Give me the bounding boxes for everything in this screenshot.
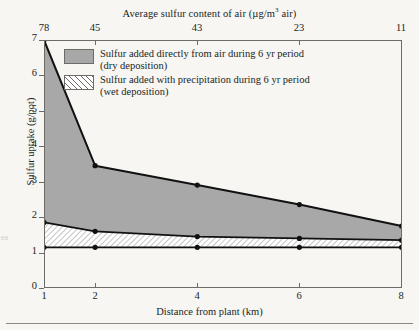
x-tick-label-4: 8 (381, 290, 419, 301)
legend: Sulfur added directly from air during 6 … (64, 48, 310, 100)
y-tick-1 (39, 253, 44, 254)
solid-gray-swatch-icon (64, 49, 94, 64)
legend-dry-line2: (dry deposition) (100, 60, 304, 72)
y-tick-5 (39, 111, 44, 112)
y-tick-6 (39, 75, 44, 76)
top-tick-label-3: 23 (279, 22, 319, 33)
x-axis-title: Distance from plant (km) (0, 306, 419, 317)
y-axis-title: Sulfur uptake (g/pot) (25, 62, 36, 222)
page-bleed-text: ea (1, 232, 9, 243)
x-tick-label-1: 2 (75, 290, 115, 301)
top-tick-11 (401, 40, 402, 45)
hatched-swatch-icon (64, 75, 94, 90)
x-tick-4 (197, 283, 198, 288)
x-tick-6 (299, 283, 300, 288)
legend-item-dry-deposition: Sulfur added directly from air during 6 … (64, 48, 310, 71)
x-tick-label-3: 6 (279, 290, 319, 301)
y-tick-3 (39, 182, 44, 183)
figure-container: Average sulfur content of air (µg/m3 air… (0, 0, 419, 330)
top-tick-78 (44, 40, 45, 45)
top-tick-label-2: 43 (177, 22, 217, 33)
legend-wet-line1: Sulfur added with precipitation during 6… (100, 74, 310, 85)
x-tick-label-0: 1 (24, 290, 64, 301)
top-tick-label-4: 11 (381, 22, 419, 33)
y-tick-label-7: 7 (24, 32, 37, 43)
y-tick-0 (39, 288, 44, 289)
top-tick-43 (197, 40, 198, 45)
y-tick-2 (39, 217, 44, 218)
y-tick-7 (39, 40, 44, 41)
legend-wet-text: Sulfur added with precipitation during 6… (100, 74, 310, 97)
top-tick-23 (299, 40, 300, 45)
legend-wet-line2: (wet deposition) (100, 86, 310, 98)
y-tick-4 (39, 146, 44, 147)
legend-dry-line1: Sulfur added directly from air during 6 … (100, 48, 304, 59)
page-divider-rule (6, 323, 413, 324)
x-tick-2 (95, 283, 96, 288)
legend-dry-text: Sulfur added directly from air during 6 … (100, 48, 304, 71)
top-tick-label-1: 45 (75, 22, 115, 33)
top-tick-45 (95, 40, 96, 45)
legend-item-wet-deposition: Sulfur added with precipitation during 6… (64, 74, 310, 97)
x-tick-label-2: 4 (177, 290, 217, 301)
y-tick-label-1: 1 (24, 245, 37, 256)
